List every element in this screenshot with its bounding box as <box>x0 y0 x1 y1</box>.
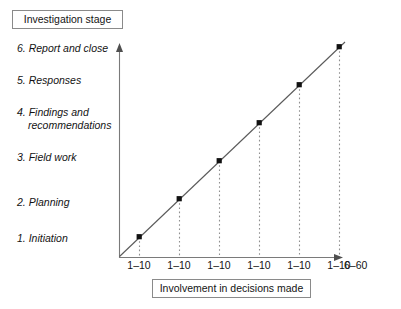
x-axis-tick-text: 1–10 <box>167 259 190 271</box>
x-axis-tick-label-3: 1–10 <box>207 259 230 271</box>
data-point-3 <box>217 158 222 163</box>
x-axis-tick-text: 1–10 <box>287 259 310 271</box>
x-axis-end-text: 6–60 <box>344 259 367 271</box>
x-axis-tick-text: 1–10 <box>207 259 230 271</box>
x-axis-caption-box: Involvement in decisions made <box>152 279 311 298</box>
x-axis-tick-label-1: 1–10 <box>127 259 150 271</box>
x-axis-caption-label: Involvement in decisions made <box>160 283 304 294</box>
x-axis-end-annotation: 6–60 <box>344 259 367 271</box>
data-point-4 <box>257 120 262 125</box>
trend-line <box>120 42 346 257</box>
y-axis <box>116 43 123 258</box>
data-point-5 <box>297 82 302 87</box>
x-axis-tick-label-2: 1–10 <box>167 259 190 271</box>
y-axis-arrowhead-icon <box>116 43 123 52</box>
data-point-2 <box>177 196 182 201</box>
data-point-6 <box>337 44 342 49</box>
figure-container: Investigation stage 6. Report and close … <box>0 0 401 309</box>
x-axis-tick-label-5: 1–10 <box>287 259 310 271</box>
x-axis-tick-text: 1–10 <box>127 259 150 271</box>
x-axis-tick-text: 1–10 <box>247 259 270 271</box>
drop-lines-group <box>140 47 340 257</box>
data-markers-group <box>137 44 342 239</box>
x-axis-tick-label-4: 1–10 <box>247 259 270 271</box>
data-point-1 <box>137 234 142 239</box>
